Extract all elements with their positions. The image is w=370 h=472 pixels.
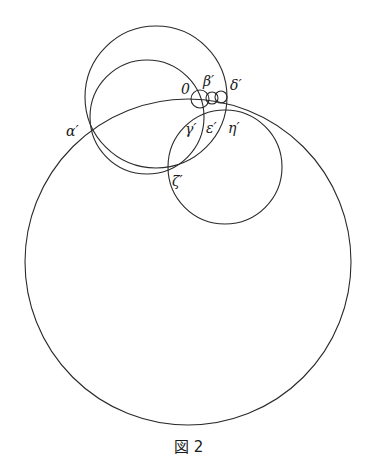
label-alpha: α′ [66,123,79,139]
label-beta: β′ [202,73,215,89]
label-delta: δ′ [230,77,242,93]
label-zeta: ζ′ [172,173,184,189]
upper-inner-circle [90,60,204,174]
large-circle [25,99,351,425]
label-origin: 0 [181,81,190,97]
figure-caption: 図 2 [174,438,203,456]
label-gamma: γ′ [185,121,197,137]
label-eta: η′ [228,120,240,136]
small-circle-eta [215,91,227,103]
geometry-diagram: 0 α′ β′ δ′ γ′ ε′ η′ ζ′ 図 2 [0,0,370,472]
label-epsilon: ε′ [206,120,218,136]
